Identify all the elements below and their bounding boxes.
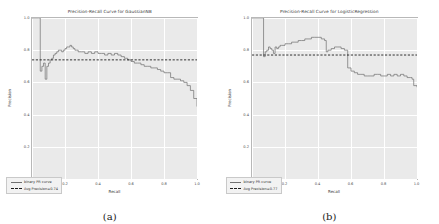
panel-b: Precision-Recall Curve for LogisticRegre… bbox=[220, 0, 439, 224]
x-tick-label: 0.4 bbox=[315, 182, 321, 186]
axes-b: 0.00.00.20.20.40.40.60.60.80.81.01.0 bbox=[251, 17, 418, 180]
y-tick-label: 1.0 bbox=[24, 16, 30, 20]
y-tick-label: 0.2 bbox=[24, 145, 30, 149]
legend-item-curve-b: binary PR curve bbox=[230, 180, 277, 184]
y-axis-label-b: Precision bbox=[226, 89, 231, 107]
chart-title-a: Precision-Recall Curve for GaussianNB bbox=[0, 9, 220, 14]
x-tick-label: 1.0 bbox=[194, 182, 200, 186]
axes-a: 0.00.00.20.20.40.40.60.60.80.81.01.0 bbox=[31, 17, 198, 180]
legend-label-avg-a: Avg Precision=0.74 bbox=[24, 187, 58, 191]
legend-item-curve-a: binary PR curve bbox=[11, 180, 58, 184]
legend-item-avg-b: Avg Precision=0.77 bbox=[230, 187, 277, 191]
legend-label-curve-b: binary PR curve bbox=[244, 180, 272, 184]
y-tick-label: 0.6 bbox=[243, 80, 249, 84]
curve-layer bbox=[252, 18, 417, 179]
legend-label-avg-b: Avg Precision=0.77 bbox=[244, 187, 278, 191]
plot-b: Precision-Recall Curve for LogisticRegre… bbox=[220, 0, 439, 200]
y-tick-label: 0.2 bbox=[243, 145, 249, 149]
x-tick-label: 0.2 bbox=[282, 182, 288, 186]
pr-curve-line bbox=[252, 18, 417, 87]
y-axis-label-a: Precision bbox=[7, 89, 12, 107]
y-tick-label: 0.4 bbox=[243, 113, 249, 117]
x-tick-label: 1.0 bbox=[414, 182, 420, 186]
chart-title-b: Precision-Recall Curve for LogisticRegre… bbox=[220, 9, 439, 14]
legend-line-dashed-icon bbox=[230, 188, 241, 189]
legend-line-solid-icon bbox=[230, 182, 241, 183]
y-tick-label: 0.8 bbox=[24, 48, 30, 52]
x-tick-label: 0.6 bbox=[348, 182, 354, 186]
x-tick-label: 0.8 bbox=[381, 182, 387, 186]
figure-two-pr-curves: Precision-Recall Curve for GaussianNB 0.… bbox=[0, 0, 439, 224]
legend-item-avg-a: Avg Precision=0.74 bbox=[11, 187, 58, 191]
curve-layer bbox=[32, 18, 197, 179]
legend-line-dashed-icon bbox=[11, 188, 22, 189]
legend-b: binary PR curve Avg Precision=0.77 bbox=[226, 177, 282, 195]
gridline-vertical bbox=[417, 18, 418, 179]
y-tick-label: 0.4 bbox=[24, 113, 30, 117]
y-tick-label: 0.6 bbox=[24, 80, 30, 84]
x-tick-label: 0.2 bbox=[62, 182, 68, 186]
y-tick-label: 0.8 bbox=[243, 48, 249, 52]
pr-curve-line bbox=[32, 18, 197, 107]
legend-line-solid-icon bbox=[11, 182, 22, 183]
subfigure-caption-a: (a) bbox=[0, 211, 220, 222]
subfigure-caption-b: (b) bbox=[220, 211, 439, 222]
y-tick-label: 1.0 bbox=[243, 16, 249, 20]
gridline-vertical bbox=[197, 18, 198, 179]
panel-a: Precision-Recall Curve for GaussianNB 0.… bbox=[0, 0, 220, 224]
legend-a: binary PR curve Avg Precision=0.74 bbox=[6, 177, 62, 195]
plot-a: Precision-Recall Curve for GaussianNB 0.… bbox=[0, 0, 220, 200]
x-tick-label: 0.4 bbox=[95, 182, 101, 186]
x-tick-label: 0.6 bbox=[128, 182, 134, 186]
legend-label-curve-a: binary PR curve bbox=[24, 180, 52, 184]
x-tick-label: 0.8 bbox=[161, 182, 167, 186]
